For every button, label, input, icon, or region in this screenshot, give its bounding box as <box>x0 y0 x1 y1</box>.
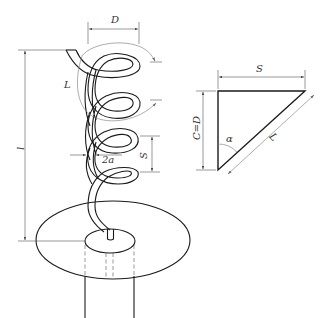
label-C-eq-D: C=D <box>191 116 202 140</box>
label-D: D <box>110 14 119 25</box>
label-2a: 2a <box>101 154 114 165</box>
helix-coil <box>66 50 140 232</box>
dimension-2a: 2a <box>70 154 122 165</box>
hub <box>85 229 135 318</box>
label-L-helix: L <box>63 79 71 90</box>
label-l: l <box>15 147 26 150</box>
label-S-triangle: S <box>256 63 263 74</box>
hub-ellipse <box>85 229 135 253</box>
diagram-canvas: D L l S 2a S C=D <box>0 0 335 318</box>
dimension-l: l <box>15 50 85 241</box>
dimension-D: D <box>88 14 139 44</box>
label-S-helix: S <box>138 152 149 159</box>
dimension-S-helix: S <box>138 136 160 172</box>
angle-alpha-arc <box>218 144 237 152</box>
wire-back-strands <box>85 72 92 184</box>
triangle-outline <box>218 91 305 170</box>
hub-post <box>108 229 114 240</box>
label-L-triangle: L <box>267 130 281 143</box>
unrolled-triangle: S C=D L α <box>191 63 314 174</box>
label-alpha: α <box>226 133 233 144</box>
